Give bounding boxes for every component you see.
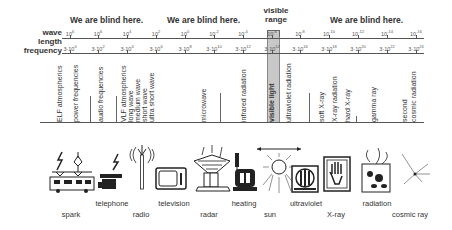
frequency-tick-label: 3·1024	[408, 44, 423, 52]
band-gamma-ray: gamma ray	[370, 87, 378, 122]
wavelength-tick-label: 106	[94, 29, 102, 37]
band-ultra-short-wave: ultra short wave	[148, 73, 156, 122]
wavelength-tick-label: 106	[66, 29, 74, 37]
band-visible-light: visible light	[268, 83, 276, 122]
source-label-television: television	[158, 199, 189, 208]
source-label-radar: radar	[200, 210, 218, 219]
spectrum-baseline	[40, 122, 424, 123]
wavelength-tick-label: 102	[152, 29, 160, 37]
wavelength-tick-label: 10-16	[410, 29, 422, 37]
frequency-tick-label: 3·1018	[321, 44, 336, 52]
blind-label-mid: We are blind here.	[167, 15, 240, 25]
source-label-spark: spark	[62, 210, 80, 219]
band-second: second	[401, 99, 409, 122]
band-elf-atmospherics: ELF atmospherics	[56, 66, 64, 122]
wavelength-tick-label: 10-12	[352, 29, 364, 37]
frequency-tick-label: 3·104	[120, 44, 133, 52]
visible-range-label: visible range	[258, 6, 294, 24]
divider-micro-infrared	[220, 93, 221, 122]
wavelength-axis-line	[62, 38, 424, 39]
wavelength-tick-label: 10-10	[323, 29, 335, 37]
cosmic-ray-icon	[398, 152, 432, 190]
wavelength-axis-label: wave length	[20, 28, 62, 46]
divider-power-audio	[90, 96, 91, 122]
radar-icon	[192, 145, 232, 193]
frequency-tick-label: 3·102	[91, 44, 104, 52]
frequency-tick-label: 3·1012	[235, 44, 250, 52]
band-hard-xray: hard X-ray	[344, 89, 352, 122]
uv-lamp-icon	[291, 165, 319, 193]
frequency-tick-label: 3·1022	[379, 44, 394, 52]
band-infrared: infrared radiation	[240, 69, 248, 122]
band-ultraviolet: ultraviolet radiation	[285, 63, 293, 122]
band-cosmic-radiation: cosmic radiation	[410, 71, 418, 122]
wavelength-tick-label: 10-6	[267, 29, 277, 37]
wavelength-tick-label: 10-8	[295, 29, 305, 37]
xray-hand-icon	[323, 156, 351, 192]
wavelength-tick-label: 104	[123, 29, 131, 37]
frequency-axis-line	[62, 53, 424, 54]
radio-tower-icon	[128, 143, 156, 191]
blind-label-high: We are blind here.	[330, 15, 403, 25]
frequency-tick-label: 3·1020	[350, 44, 365, 52]
wavelength-tick-label: 10-4	[238, 29, 248, 37]
divider-xray-gamma	[356, 116, 357, 122]
source-label-radio: radio	[133, 210, 150, 219]
band-soft-xray: soft X-ray	[318, 92, 326, 122]
band-microwave: microwave	[200, 89, 208, 122]
radiation-source-icon	[360, 148, 392, 194]
telephone-icon	[96, 152, 126, 192]
band-xray-radiation: X-ray radiation	[331, 76, 339, 122]
television-icon	[155, 167, 187, 191]
frequency-tick-label: 3·108	[178, 44, 191, 52]
divider-uv-xray	[309, 93, 310, 122]
frequency-tick-label: 3·1014	[264, 44, 279, 52]
source-label-ultraviolet: ultraviolet	[290, 199, 322, 208]
source-label-telephone: telephone	[96, 199, 129, 208]
band-audio-frequencies: audio frequencies	[97, 67, 105, 122]
band-power-frequencies: power frequencies	[72, 65, 80, 122]
source-label-sun: sun	[264, 210, 276, 219]
source-label-radiation: radiation	[363, 199, 392, 208]
wavelength-tick-label: 100	[181, 29, 189, 37]
source-label-xray: X-ray	[327, 210, 345, 219]
source-label-heating: heating	[232, 199, 257, 208]
wavelength-tick-label: 10-14	[381, 29, 393, 37]
divider-audio-vlf	[116, 96, 117, 122]
frequency-axis-label: frequency	[0, 46, 62, 55]
frequency-tick-label: 3·100	[63, 44, 76, 52]
spark-train-icon	[48, 150, 98, 195]
frequency-tick-label: 3·1016	[292, 44, 307, 52]
frequency-tick-label: 3·106	[149, 44, 162, 52]
blind-label-low: We are blind here.	[70, 15, 143, 25]
frequency-tick-label: 3·1010	[206, 44, 221, 52]
wavelength-tick-label: 10-2	[209, 29, 219, 37]
source-label-cosmic-ray: cosmic ray	[392, 210, 428, 219]
